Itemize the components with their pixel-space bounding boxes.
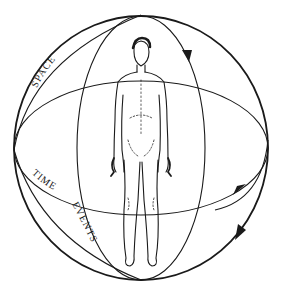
arrow-down-left-icon	[235, 224, 246, 240]
events-label: EVENTS	[70, 200, 100, 245]
human-figure	[111, 38, 171, 266]
space-time-sphere-diagram: SPACE TIME EVENTS	[0, 0, 282, 295]
time-label: TIME	[30, 167, 59, 192]
arrow-down-icon	[182, 50, 192, 62]
figure-head	[134, 41, 149, 66]
